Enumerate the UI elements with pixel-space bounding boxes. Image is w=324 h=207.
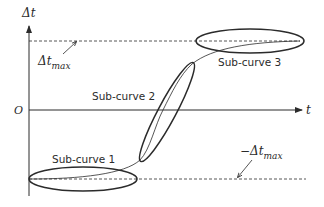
s-curve-diagram: Δt t O Δtmax −Δtmax Sub-curve 1 Sub-curv… [0,0,324,207]
sub-curve-1-label: Sub-curve 1 [52,153,115,165]
lower-threshold-label: −Δtmax [240,144,283,161]
sub-curve-2-ellipse [133,58,201,165]
origin-label: O [14,104,23,117]
lower-threshold-leader [238,160,252,177]
y-axis-label: Δt [21,6,36,20]
upper-threshold-leader [63,42,76,54]
sub-curve-3-label: Sub-curve 3 [218,56,281,68]
upper-threshold-label: Δtmax [37,54,70,71]
sub-curve-2-label: Sub-curve 2 [92,90,155,102]
x-axis-label: t [306,103,311,117]
